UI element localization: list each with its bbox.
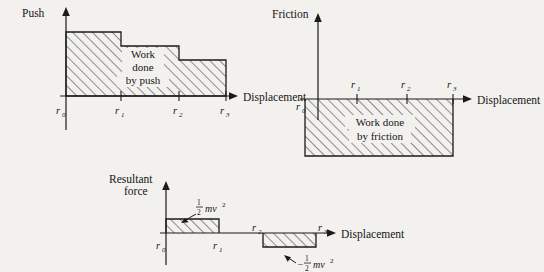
friction-x-axis-label: Displacement bbox=[477, 94, 541, 107]
push-region-label: Work done by push bbox=[117, 48, 169, 87]
negative-formula-sign: − bbox=[297, 259, 304, 270]
svg-text:0: 0 bbox=[302, 107, 306, 115]
negative-fraction-numerator: 1 bbox=[305, 254, 309, 263]
svg-text:3: 3 bbox=[323, 228, 328, 236]
negative-formula-body: mv bbox=[313, 259, 325, 270]
positive-fraction-denominator: 2 bbox=[197, 208, 201, 217]
push-y-axis-label: Push bbox=[22, 7, 45, 19]
svg-text:0: 0 bbox=[162, 246, 166, 254]
svg-text:force: force bbox=[124, 185, 148, 197]
work-energy-diagram: Push Displacement r 0 r 1 r 2 r 3 Work d… bbox=[0, 0, 544, 272]
negative-formula-exponent: 2 bbox=[330, 257, 334, 265]
svg-text:Work: Work bbox=[131, 48, 156, 60]
svg-text:by friction: by friction bbox=[357, 130, 404, 142]
negative-fraction-denominator: 2 bbox=[305, 264, 309, 272]
friction-y-axis-label: Friction bbox=[272, 8, 309, 20]
svg-text:1: 1 bbox=[219, 246, 223, 254]
friction-region-label: Work done by friction bbox=[345, 115, 415, 143]
svg-text:1: 1 bbox=[357, 85, 361, 93]
positive-fraction-numerator: 1 bbox=[197, 198, 201, 207]
resultant-positive-bar-fill bbox=[166, 219, 219, 233]
push-bar-3-fill bbox=[179, 60, 226, 96]
positive-formula-body: mv bbox=[205, 203, 217, 214]
resultant-negative-bar-fill bbox=[263, 233, 316, 247]
svg-text:by push: by push bbox=[126, 74, 161, 86]
svg-text:3: 3 bbox=[225, 111, 230, 119]
svg-text:2: 2 bbox=[179, 111, 183, 119]
svg-text:2: 2 bbox=[407, 85, 411, 93]
push-bar-1-fill bbox=[66, 32, 121, 96]
svg-text:2: 2 bbox=[258, 228, 262, 236]
svg-text:0: 0 bbox=[62, 111, 66, 119]
svg-text:3: 3 bbox=[452, 85, 457, 93]
svg-text:1: 1 bbox=[121, 111, 125, 119]
resultant-x-axis-label: Displacement bbox=[341, 228, 405, 241]
svg-text:done: done bbox=[132, 61, 154, 73]
svg-text:Resultant: Resultant bbox=[109, 173, 153, 185]
positive-formula-exponent: 2 bbox=[222, 201, 226, 209]
svg-text:Work done: Work done bbox=[356, 116, 404, 128]
